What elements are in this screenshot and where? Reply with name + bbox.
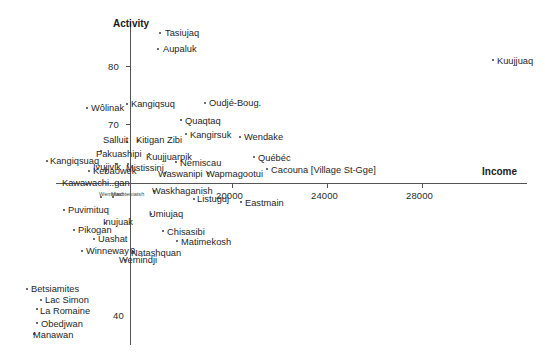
y-axis-line — [130, 22, 131, 345]
y-tick-mark — [126, 124, 130, 125]
data-point[interactable] — [36, 308, 38, 310]
data-point[interactable] — [492, 59, 494, 61]
data-point-label: Umiujaq — [149, 210, 183, 219]
y-axis-title: Activity — [113, 18, 149, 29]
data-point-label: Quaqtaq — [185, 117, 221, 126]
data-point-label: Cacouna [Village St-Gge] — [271, 166, 376, 175]
data-point-label: Kawawachi..gan — [62, 179, 130, 188]
data-point-label: Oudjé-Boug. — [209, 99, 261, 108]
x-tick-mark — [232, 184, 233, 188]
data-point-label: Lac Simon — [45, 296, 89, 305]
data-point[interactable] — [93, 238, 95, 240]
data-point-label: Listuguj — [197, 195, 229, 204]
data-point-label: Obedjwan — [41, 320, 83, 329]
data-point-label: Mashteuiatsh — [111, 192, 144, 198]
data-point[interactable] — [88, 170, 90, 172]
data-point-label: Québéc — [258, 154, 291, 163]
y-tick-mark — [126, 66, 130, 67]
y-tick-label-40: 40 — [113, 310, 124, 321]
x-tick-mark — [327, 184, 328, 188]
data-point-label: Kitigan Zibi — [136, 136, 182, 145]
data-point-label: Kebaowek — [93, 167, 136, 176]
data-point[interactable] — [162, 230, 164, 232]
data-point-label: Wemindji — [119, 256, 157, 265]
data-point[interactable] — [180, 119, 182, 121]
data-point-label: Nemiscau — [180, 159, 221, 168]
data-point[interactable] — [126, 103, 128, 105]
data-point-label: La Romaine — [40, 307, 90, 316]
data-point[interactable] — [204, 102, 206, 104]
data-point[interactable] — [26, 288, 28, 290]
data-point-label: Chisasibi — [167, 228, 205, 237]
scatter-plot-canvas: Activity Income 0 20000 24000 28000 80 7… — [0, 0, 545, 359]
data-point-label: Tasiujaq — [165, 29, 199, 38]
data-point-label: Matimekosh — [181, 238, 231, 247]
data-point-label: Eastmain — [245, 199, 284, 208]
data-point[interactable] — [63, 209, 65, 211]
x-axis-title: Income — [482, 166, 517, 177]
data-point[interactable] — [239, 136, 241, 138]
data-point-label: Puvimituq — [68, 206, 109, 215]
x-tick-label-28000: 28000 — [406, 190, 433, 201]
data-point[interactable] — [86, 107, 88, 109]
data-point-label: Aupaluk — [163, 45, 197, 54]
data-point-label: Kangiqsuq — [131, 100, 175, 109]
data-point-label: Pakuashipi — [96, 150, 141, 159]
data-point-label: Wôlinak — [91, 104, 124, 113]
data-point[interactable] — [159, 32, 161, 34]
x-tick-mark — [422, 184, 423, 188]
data-point[interactable] — [36, 322, 38, 324]
data-point[interactable] — [175, 161, 177, 163]
y-tick-label-70: 70 — [108, 119, 119, 130]
data-point-label: Wendake — [244, 133, 283, 142]
data-point[interactable] — [157, 48, 159, 50]
data-point[interactable] — [193, 198, 195, 200]
data-point-label: Wapmagootui — [206, 170, 263, 179]
data-point-label: Kangiqsuaq — [50, 157, 99, 166]
data-point-label: Waswanipi — [158, 170, 203, 179]
data-point-label: Manawan — [33, 331, 73, 340]
data-point[interactable] — [266, 168, 268, 170]
data-point[interactable] — [240, 201, 242, 203]
data-point-label: Uashat — [98, 235, 127, 244]
data-point[interactable] — [46, 160, 48, 162]
data-point[interactable] — [73, 229, 75, 231]
data-point-label: Betsiamites — [31, 285, 79, 294]
data-point-label: Kuujjuaq — [497, 57, 533, 66]
data-point[interactable] — [185, 133, 187, 135]
data-point-label: Kangirsuk — [190, 131, 231, 140]
data-point-label: Salluit — [103, 136, 128, 145]
data-point[interactable] — [253, 156, 255, 158]
y-tick-label-80: 80 — [108, 61, 119, 72]
x-tick-label-24000: 24000 — [311, 190, 338, 201]
data-point[interactable] — [81, 250, 83, 252]
data-point[interactable] — [176, 240, 178, 242]
data-point[interactable] — [40, 299, 42, 301]
